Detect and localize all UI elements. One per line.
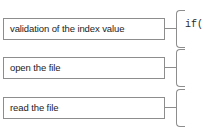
step-box[interactable]: open the file: [3, 57, 165, 79]
code-snippet: if(: [185, 19, 203, 30]
step-label: validation of the index value: [10, 19, 124, 39]
code-brace-bracket: [176, 10, 185, 48]
diagram-step-row: read the file: [0, 93, 204, 136]
diagram-canvas: validation of the index value if( open t…: [0, 0, 204, 136]
step-box[interactable]: validation of the index value: [3, 18, 165, 40]
code-brace-bracket: [176, 49, 185, 87]
step-label: read the file: [10, 98, 58, 118]
diagram-step-row: validation of the index value if(: [0, 14, 204, 58]
code-brace-bracket: [176, 89, 185, 127]
diagram-step-row: open the file: [0, 53, 204, 97]
step-box[interactable]: read the file: [3, 97, 165, 119]
step-label: open the file: [10, 58, 60, 78]
